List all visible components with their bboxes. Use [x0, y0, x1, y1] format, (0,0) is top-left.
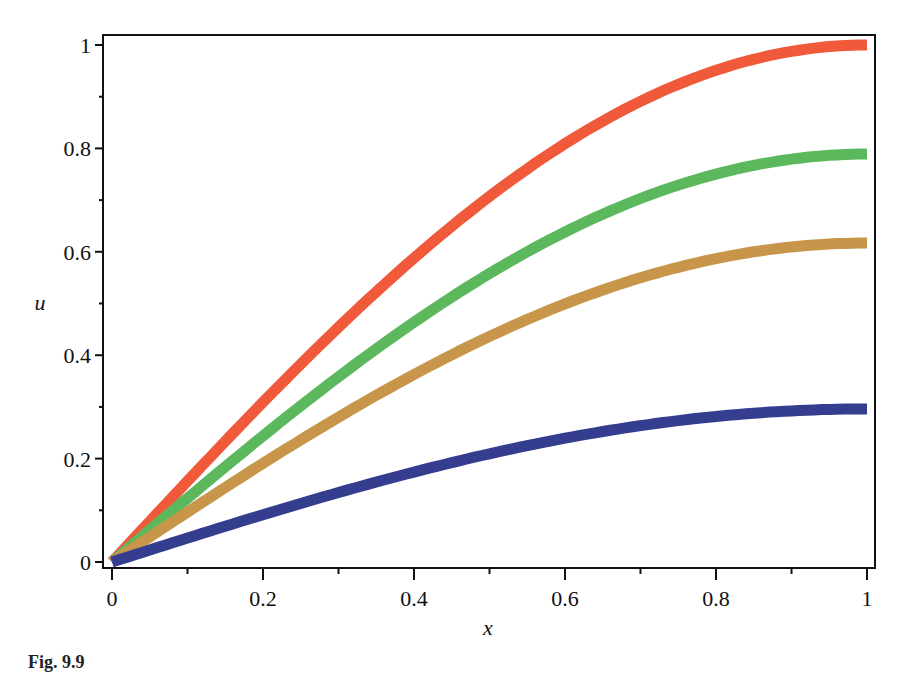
x-tick-label: 0: [107, 586, 118, 611]
y-tick-label: 1: [80, 33, 91, 58]
x-tick-label: 0.8: [702, 586, 730, 611]
x-tick-label: 1: [862, 586, 873, 611]
x-axis: 00.20.40.60.81: [107, 567, 873, 611]
x-tick-label: 0.6: [551, 586, 579, 611]
plot-curves: [112, 45, 867, 562]
x-axis-label: x: [482, 615, 493, 640]
y-tick-label: 0.6: [64, 240, 92, 265]
curve-tan: [112, 243, 867, 562]
y-tick-label: 0.2: [64, 447, 92, 472]
y-tick-label: 0: [80, 550, 91, 575]
y-tick-label: 0.4: [64, 343, 92, 368]
y-tick-label: 0.8: [64, 136, 92, 161]
y-axis: 00.20.40.60.81: [64, 33, 105, 575]
figure-caption: Fig. 9.9: [28, 652, 85, 673]
y-axis-label: u: [35, 290, 46, 315]
x-tick-label: 0.2: [249, 586, 277, 611]
x-tick-label: 0.4: [400, 586, 428, 611]
curve-green: [112, 154, 867, 562]
